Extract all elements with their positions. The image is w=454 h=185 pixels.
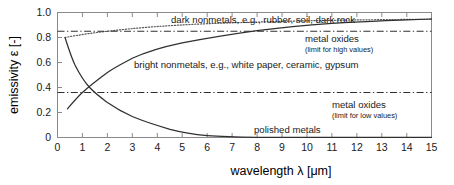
x-tick-label-8: 8 — [254, 141, 260, 153]
y-axis-title: emissivity ε [-] — [7, 36, 21, 114]
emissivity-wavelength-chart: 1.0 0.8 0.6 0.4 0.2 0 0 1 2 3 4 5 6 7 8 … — [0, 0, 454, 185]
y-tick-label-0.6: 0.6 — [36, 56, 51, 68]
x-tick-label-5: 5 — [179, 141, 185, 153]
y-tick-label-1.0: 1.0 — [36, 6, 51, 18]
x-tick-label-11: 11 — [326, 141, 337, 153]
annotation-bright-nonmetals: bright nonmetals, e.g., white paper, cer… — [134, 59, 359, 70]
y-tick-label-0.4: 0.4 — [36, 81, 51, 93]
series-polished-metals-curve — [65, 38, 432, 138]
x-tick-label-14: 14 — [401, 141, 413, 153]
x-tick-label-2: 2 — [104, 141, 110, 153]
annotation-dark-nonmetals: dark nonmetals, e.g., rubber, soil, dark… — [171, 14, 355, 25]
y-tick-label-0.8: 0.8 — [36, 31, 51, 43]
x-tick-label-15: 15 — [426, 141, 438, 153]
y-tick-label-0.2: 0.2 — [36, 106, 51, 118]
x-tick-label-9: 9 — [279, 141, 285, 153]
y-tick-label-0: 0 — [45, 131, 51, 143]
annotation-metal-oxides-low-sub: (limit for low values) — [332, 111, 397, 120]
x-tick-label-1: 1 — [79, 141, 85, 153]
x-tick-label-6: 6 — [204, 141, 210, 153]
x-tick-label-7: 7 — [229, 141, 235, 153]
annotation-metal-oxides-high-sub: (limit for high values) — [305, 45, 373, 54]
x-tick-label-0: 0 — [55, 141, 61, 153]
annotation-metal-oxides-high: metal oxides — [305, 33, 359, 44]
x-tick-label-13: 13 — [376, 141, 388, 153]
x-tick-label-4: 4 — [154, 141, 160, 153]
x-tick-label-12: 12 — [351, 141, 363, 153]
annotation-polished-metals: polished metals — [254, 124, 321, 135]
chart-canvas: 1.0 0.8 0.6 0.4 0.2 0 0 1 2 3 4 5 6 7 8 … — [0, 0, 454, 185]
annotation-metal-oxides-low: metal oxides — [332, 99, 386, 110]
x-tick-label-3: 3 — [129, 141, 135, 153]
x-tick-label-10: 10 — [301, 141, 313, 153]
x-axis-title: wavelength λ [μm] — [230, 164, 332, 178]
